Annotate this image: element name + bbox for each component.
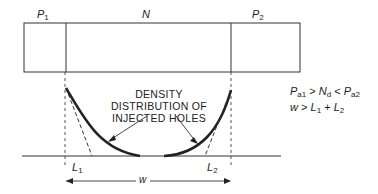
caption-line-2: DISTRIBUTION OF [104, 100, 214, 112]
diffusion-length-label-l1: L1 [72, 162, 83, 175]
region-label-p2: P2 [252, 9, 264, 22]
region-label-p1: P1 [37, 9, 49, 22]
region-label-n: N [142, 9, 150, 20]
pointer-arrowhead-right [190, 137, 198, 144]
density-distribution-caption: DENSITY DISTRIBUTION OF INJECTED HOLES [104, 88, 214, 124]
width-arrowhead-left [66, 178, 73, 184]
width-arrowhead-right [224, 178, 231, 184]
pointer-arrowhead-left [108, 135, 116, 142]
caption-line-1: DENSITY [104, 88, 214, 100]
diffusion-length-label-l2: L2 [207, 162, 218, 175]
width-condition: w > L1 + L2 [290, 100, 344, 118]
caption-line-3: INJECTED HOLES [104, 112, 214, 124]
width-label: w [139, 175, 146, 185]
device-bar [24, 23, 300, 72]
